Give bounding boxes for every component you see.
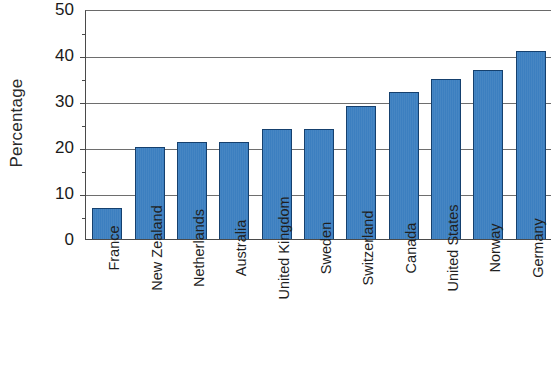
y-tick-label: 40 (55, 46, 74, 66)
y-tick-label: 20 (55, 138, 74, 158)
bar (516, 51, 546, 239)
x-tick-label-text: Sweden (318, 222, 334, 274)
x-tick-label-text: Canada (403, 223, 419, 274)
x-tick-label: Canada (388, 244, 418, 370)
x-tick-label: Sweden (303, 244, 333, 370)
x-tick-label-text: United States (445, 204, 461, 291)
x-tick-label: United States (430, 244, 460, 370)
bar (389, 92, 419, 239)
y-tick-label: 0 (65, 230, 74, 250)
x-tick-label: Germany (515, 244, 545, 370)
x-tick-label-text: Norway (487, 223, 503, 272)
y-axis-title: Percentage (0, 0, 34, 245)
x-tick-label-text: New Zealand (149, 205, 165, 290)
y-tick-label: 30 (55, 92, 74, 112)
x-tick-label: United Kingdom (261, 244, 291, 370)
x-tick-label-text: Switzerland (360, 211, 376, 286)
x-tick-label: Netherlands (176, 244, 206, 370)
x-tick-label-text: Netherlands (191, 209, 207, 287)
x-tick-label-text: United Kingdom (276, 196, 292, 299)
x-tick-label: Switzerland (345, 244, 375, 370)
y-axis-title-text: Percentage (7, 78, 27, 167)
x-tick-label-text: Australia (233, 220, 249, 276)
bar (473, 70, 503, 239)
bar-chart-figure: Percentage 01020304050 FranceNew Zealand… (0, 0, 551, 370)
x-axis-tick-labels: FranceNew ZealandNetherlandsAustraliaUni… (85, 244, 551, 370)
x-tick-label: New Zealand (134, 244, 164, 370)
y-tick-label: 10 (55, 184, 74, 204)
x-tick-label-text: France (106, 225, 122, 270)
x-tick-label: Australia (218, 244, 248, 370)
x-tick-label: Norway (472, 244, 502, 370)
x-tick-label-text: Germany (530, 218, 546, 278)
x-tick-label: France (91, 244, 121, 370)
y-tick-label: 50 (55, 0, 74, 20)
y-axis-tick-labels: 01020304050 (34, 0, 80, 250)
